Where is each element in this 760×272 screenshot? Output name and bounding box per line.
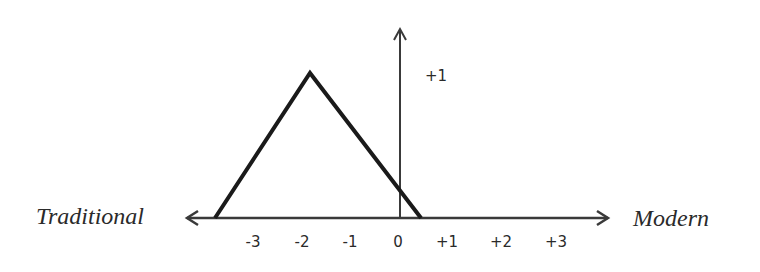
- triangle-function-line: [215, 73, 421, 218]
- x-tick-label: +2: [490, 233, 512, 251]
- traditional-label: Traditional: [36, 203, 144, 230]
- modern-label: Modern: [633, 205, 709, 232]
- x-tick-label: -2: [295, 233, 310, 251]
- x-tick-label: 0: [393, 233, 403, 251]
- x-tick-label: -3: [246, 233, 261, 251]
- x-tick-label: +1: [436, 233, 458, 251]
- x-tick-label: -1: [343, 233, 358, 251]
- x-tick-label: +3: [545, 233, 567, 251]
- y-tick-label: +1: [425, 67, 447, 85]
